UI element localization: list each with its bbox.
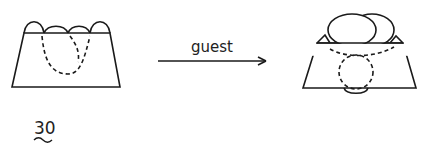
host-guest-diagram: guest 30 — [0, 0, 433, 154]
host-bump-3 — [68, 26, 90, 33]
internal-cavity — [339, 55, 373, 89]
host-trapezoid — [12, 33, 120, 87]
host-cavity-inner — [70, 36, 79, 62]
host-figure — [12, 22, 120, 87]
complex-figure — [303, 14, 416, 93]
host-bump-2 — [44, 26, 68, 33]
host-cavity-outline — [42, 36, 90, 74]
complex-corner-left — [317, 35, 330, 43]
reaction-arrow: guest — [158, 38, 266, 65]
arrow-label: guest — [191, 38, 233, 56]
host-bump-1 — [24, 22, 44, 33]
figure-number-group: 30 — [34, 118, 56, 142]
figure-number-underline — [34, 138, 52, 143]
host-bump-4 — [90, 22, 110, 33]
figure-number: 30 — [34, 118, 56, 138]
guest-lobe-front — [328, 14, 376, 46]
